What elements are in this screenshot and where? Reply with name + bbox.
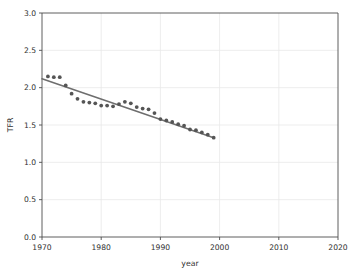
tick-label-x: 1990: [151, 243, 170, 252]
tick-label-y: 2.0: [24, 83, 36, 92]
data-point: [141, 107, 145, 111]
data-point: [194, 128, 198, 132]
data-point: [58, 75, 62, 79]
tick-label-x: 2010: [269, 243, 288, 252]
data-point: [159, 117, 163, 121]
data-point: [164, 119, 168, 123]
tick-label-x: 2000: [210, 243, 229, 252]
tick-label-y: 3.0: [24, 9, 36, 18]
data-point: [52, 75, 56, 79]
data-point: [99, 104, 103, 108]
tick-label-x: 1970: [32, 243, 51, 252]
tick-label-y: 0.0: [24, 233, 36, 242]
data-point: [206, 133, 210, 137]
y-axis-title: TFR: [6, 117, 15, 133]
data-point: [170, 120, 174, 124]
data-point: [87, 101, 91, 105]
data-point: [200, 131, 204, 135]
tick-label-y: 1.5: [24, 121, 36, 130]
data-point: [93, 101, 97, 105]
tick-label-x: 1980: [92, 243, 111, 252]
data-point: [111, 104, 115, 108]
data-point: [188, 128, 192, 132]
data-point: [64, 84, 68, 88]
data-point: [153, 111, 157, 115]
tick-label-y: 0.5: [24, 195, 36, 204]
tick-label-y: 2.5: [24, 46, 36, 55]
chart-canvas: 0.00.51.01.52.02.53.0 197019801990200020…: [0, 0, 352, 273]
data-point: [129, 101, 133, 105]
data-point: [117, 102, 121, 106]
tick-label-y: 1.0: [24, 158, 36, 167]
data-point: [46, 75, 50, 79]
data-point: [176, 122, 180, 126]
data-point: [76, 97, 80, 101]
data-point: [123, 100, 127, 104]
data-point: [82, 100, 86, 104]
data-point: [135, 105, 139, 109]
data-point: [147, 107, 151, 111]
data-point: [212, 136, 216, 140]
data-point: [105, 104, 109, 108]
chart-figure: 0.00.51.01.52.02.53.0 197019801990200020…: [0, 0, 352, 273]
data-point: [70, 92, 74, 96]
x-axis-title: year: [181, 259, 199, 268]
data-point: [182, 124, 186, 128]
tick-label-x: 2020: [328, 243, 347, 252]
